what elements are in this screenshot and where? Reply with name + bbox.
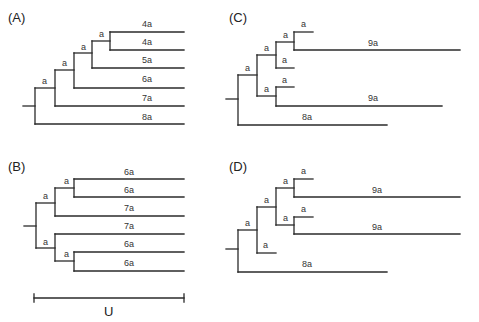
leaf-label: 6a: [124, 185, 134, 195]
leaf-label: 9a: [372, 185, 382, 195]
leaf-label: a: [301, 204, 306, 214]
panel-label-d: (D): [229, 159, 247, 174]
leaf-label: a: [282, 75, 287, 85]
leaf-label: 4a: [142, 37, 152, 47]
node-label: a: [264, 84, 269, 94]
node-label: a: [245, 63, 250, 73]
phylogenetic-trees-figure: (A)4a4a5a6a7a8aaaaa(B)6a6a7a7a6a6aaaaa(C…: [0, 0, 479, 322]
leaf-label: a: [301, 166, 306, 176]
node-label: a: [81, 42, 86, 52]
leaf-label: a: [282, 55, 287, 65]
leaf-label: 6a: [142, 74, 152, 84]
node-label: a: [43, 237, 48, 247]
leaf-label: 7a: [124, 203, 134, 213]
panel-label-c: (C): [229, 10, 247, 25]
node-label: a: [43, 191, 48, 201]
leaf-label: 8a: [302, 259, 312, 269]
node-label: a: [245, 218, 250, 228]
leaf-label: 8a: [142, 112, 152, 122]
leaf-label: 4a: [142, 19, 152, 29]
node-label: a: [283, 176, 288, 186]
panel-label-b: (B): [8, 159, 25, 174]
node-label: a: [264, 195, 269, 205]
node-label: a: [99, 29, 104, 39]
leaf-label: 6a: [124, 258, 134, 268]
leaf-label: a: [301, 19, 306, 29]
node-label: a: [283, 213, 288, 223]
scale-bar: U: [34, 294, 184, 319]
leaf-label: 5a: [142, 55, 152, 65]
leaf-label: 9a: [372, 222, 382, 232]
leaf-label: 7a: [124, 221, 134, 231]
node-label: a: [264, 43, 269, 53]
leaf-label: 9a: [368, 93, 378, 103]
leaf-label: 7a: [142, 93, 152, 103]
node-label: a: [64, 249, 69, 259]
panel-label-a: (A): [8, 10, 25, 25]
node-label: a: [64, 176, 69, 186]
leaf-label: 8a: [302, 112, 312, 122]
leaf-label: 6a: [124, 239, 134, 249]
scale-bar-label: U: [104, 304, 113, 319]
leaf-label: 6a: [124, 167, 134, 177]
node-label: a: [42, 76, 47, 86]
leaf-label: 9a: [368, 38, 378, 48]
leaf-label: a: [263, 240, 268, 250]
node-label: a: [62, 58, 67, 68]
node-label: a: [283, 30, 288, 40]
